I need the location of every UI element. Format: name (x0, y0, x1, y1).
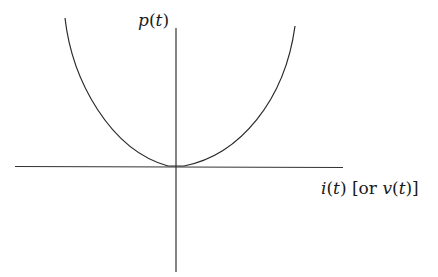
x-label-var: i (321, 178, 326, 198)
x-label-or: or (359, 178, 377, 198)
y-axis-label: p(t) (138, 10, 169, 30)
x-label-alt-var: v (382, 178, 392, 198)
x-axis-label: i(t) [or v(t)] (321, 178, 419, 198)
x-label-alt-arg: t (399, 178, 406, 198)
y-label-arg: t (156, 10, 163, 30)
x-label-arg: t (333, 178, 340, 198)
y-label-var: p (138, 10, 149, 30)
power-curve (65, 18, 295, 166)
x-axis (15, 167, 343, 168)
power-vs-current-plot (0, 0, 438, 277)
